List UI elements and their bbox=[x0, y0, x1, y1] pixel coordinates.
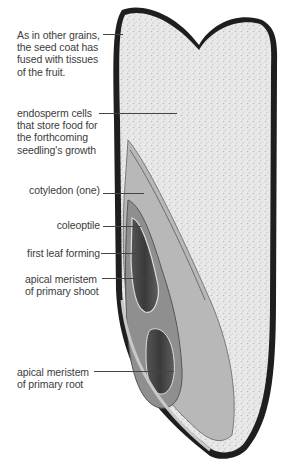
label-line: first leaf forming bbox=[0, 247, 100, 259]
label-line: of the fruit. bbox=[17, 66, 100, 78]
leader-line-coleoptile bbox=[103, 226, 141, 227]
label-endosperm: endosperm cells that store food for the … bbox=[17, 107, 97, 156]
label-seed-coat: As in other grains, the seed coat has fu… bbox=[17, 29, 100, 78]
seed-section-figure: As in other grains, the seed coat has fu… bbox=[0, 0, 293, 468]
label-line: the seed coat has bbox=[17, 41, 100, 53]
label-line: cotyledon (one) bbox=[0, 184, 100, 196]
label-line: the forthcoming bbox=[17, 131, 97, 143]
label-coleoptile: coleoptile bbox=[0, 219, 100, 231]
leader-line-endosperm bbox=[99, 113, 177, 114]
leader-line-first-leaf bbox=[101, 253, 143, 254]
label-line: fused with tissues bbox=[17, 53, 100, 65]
leader-line-apical-shoot bbox=[102, 278, 150, 279]
label-first-leaf: first leaf forming bbox=[0, 247, 100, 259]
label-line: coleoptile bbox=[0, 219, 100, 231]
label-line: apical meristem bbox=[17, 366, 89, 378]
leader-line-seed-coat bbox=[103, 34, 123, 35]
label-line: seedling's growth bbox=[17, 144, 97, 156]
label-apical-meristem-shoot: apical meristem of primary shoot bbox=[25, 273, 99, 297]
label-line: endosperm cells bbox=[17, 107, 97, 119]
label-line: of primary shoot bbox=[25, 285, 99, 297]
label-line: As in other grains, bbox=[17, 29, 100, 41]
label-apical-meristem-root: apical meristem of primary root bbox=[17, 366, 89, 390]
leader-line-apical-root bbox=[94, 371, 174, 372]
label-line: apical meristem bbox=[25, 273, 99, 285]
label-line: that store food for bbox=[17, 119, 97, 131]
leader-line-cotyledon bbox=[103, 193, 144, 194]
label-cotyledon: cotyledon (one) bbox=[0, 184, 100, 196]
label-line: of primary root bbox=[17, 378, 89, 390]
